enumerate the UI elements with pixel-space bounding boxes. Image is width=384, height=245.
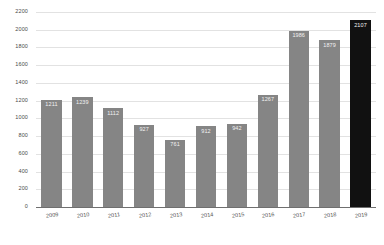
- y-axis-tick-label: 0: [25, 204, 28, 210]
- x-axis-tick-slot: 2016: [252, 209, 283, 231]
- y-axis-tick-label: 600: [19, 151, 28, 157]
- plot-area: 1211123911129277619129421267198618792107: [36, 12, 376, 207]
- y-axis-tick-label: 200: [19, 187, 28, 193]
- x-axis-tick-label: 2015: [231, 208, 245, 219]
- bar-slot: 2107: [345, 12, 376, 207]
- bar[interactable]: 1267: [258, 95, 278, 207]
- bar-slot: 1986: [283, 12, 314, 207]
- x-axis-tick-slot: 2017: [283, 209, 314, 231]
- y-axis-tick-label: 1800: [15, 45, 28, 51]
- y-axis-tick-label: 1000: [15, 116, 28, 122]
- x-axis-tick-labels: 2009201020112012201320142015201620172018…: [36, 209, 376, 231]
- y-axis-tick-label: 1200: [15, 98, 28, 104]
- bar-slot: 1112: [98, 12, 129, 207]
- x-axis-tick-label: 2013: [169, 208, 183, 219]
- x-axis-tick-label: 2019: [354, 208, 368, 219]
- y-axis-tick-label: 1600: [15, 62, 28, 68]
- x-axis-tick-slot: 2014: [191, 209, 222, 231]
- bar-value-label: 927: [139, 125, 148, 133]
- bar[interactable]: 1986: [289, 31, 309, 207]
- x-axis-tick-slot: 2018: [314, 209, 345, 231]
- bar-value-label: 1211: [45, 100, 57, 108]
- bar[interactable]: 1211: [41, 100, 61, 207]
- y-axis-tick-label: 2200: [15, 9, 28, 15]
- bar-value-label: 1112: [107, 108, 119, 116]
- bar-value-label: 912: [201, 126, 210, 134]
- bar-chart: 0200400600800100012001400160018002000220…: [0, 0, 384, 245]
- bar-value-label: 2107: [354, 20, 367, 28]
- x-axis-tick-label: 2018: [323, 208, 337, 219]
- bar[interactable]: 942: [227, 124, 247, 207]
- bar-slot: 1211: [36, 12, 67, 207]
- x-axis-tick-label: 2017: [292, 208, 306, 219]
- x-axis-tick-label: 2016: [262, 208, 276, 219]
- x-axis-tick-slot: 2012: [129, 209, 160, 231]
- x-axis-tick-slot: 2015: [221, 209, 252, 231]
- x-axis-tick-slot: 2019: [345, 209, 376, 231]
- x-axis-tick-slot: 2011: [98, 209, 129, 231]
- x-axis-tick-slot: 2010: [67, 209, 98, 231]
- bar[interactable]: 1239: [72, 97, 92, 207]
- x-axis-tick-label: 2011: [107, 208, 120, 219]
- bar-slot: 912: [191, 12, 222, 207]
- bar-slot: 927: [129, 12, 160, 207]
- bar[interactable]: 2107: [350, 20, 370, 207]
- bar-value-label: 1879: [323, 40, 336, 48]
- bar[interactable]: 1112: [103, 108, 123, 207]
- bar-value-label: 942: [232, 124, 241, 132]
- x-axis-tick-slot: 2009: [36, 209, 67, 231]
- bar[interactable]: 1879: [319, 40, 339, 207]
- x-axis-tick-label: 2012: [138, 208, 152, 219]
- y-axis-tick-label: 800: [19, 133, 28, 139]
- x-axis-tick-label: 2010: [76, 208, 90, 219]
- bar[interactable]: 912: [196, 126, 216, 207]
- bar-value-label: 1239: [76, 97, 89, 105]
- y-axis-tick-label: 1400: [15, 80, 28, 86]
- bar-value-label: 761: [170, 140, 179, 148]
- bar-slot: 761: [160, 12, 191, 207]
- bar-series: 1211123911129277619129421267198618792107: [36, 12, 376, 207]
- bar[interactable]: 927: [134, 125, 154, 207]
- x-axis-tick-slot: 2013: [160, 209, 191, 231]
- bar-slot: 1267: [252, 12, 283, 207]
- bar-slot: 942: [221, 12, 252, 207]
- x-axis-tick-label: 2009: [45, 208, 59, 219]
- bar-value-label: 1267: [261, 95, 274, 103]
- bar-value-label: 1986: [292, 31, 305, 39]
- y-axis-tick-label: 400: [19, 169, 28, 175]
- y-axis-tick-labels: 0200400600800100012001400160018002000220…: [0, 12, 32, 207]
- bar-slot: 1879: [314, 12, 345, 207]
- y-axis-tick-label: 2000: [15, 27, 28, 33]
- bar[interactable]: 761: [165, 140, 185, 207]
- x-axis-tick-label: 2014: [200, 208, 214, 219]
- bar-slot: 1239: [67, 12, 98, 207]
